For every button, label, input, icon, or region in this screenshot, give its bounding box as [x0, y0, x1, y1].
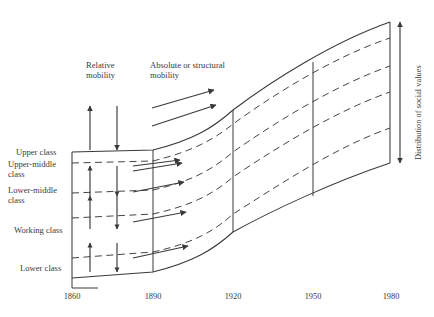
- class-label-lower-class: Lower class: [20, 264, 61, 274]
- structural-mobility-crossing-arrows: [133, 160, 188, 258]
- band-top-edge: [72, 22, 390, 152]
- crossing-arrow-2: [133, 163, 182, 171]
- year-label-1980: 1980: [371, 292, 411, 301]
- crossing-arrow-5: [133, 246, 188, 258]
- crossing-arrow-3: [133, 182, 184, 192]
- class-boundaries: [72, 38, 390, 258]
- year-label-1890: 1890: [133, 292, 173, 301]
- relative-mobility-arrows: [90, 106, 117, 150]
- absolute-mobility-arrows: [152, 90, 216, 126]
- social-mobility-figure: Relative mobility Absolute or structural…: [0, 0, 434, 317]
- class-label-upper-middle-class: Upper-middle class: [8, 160, 56, 179]
- boundary-working-class: [72, 128, 390, 258]
- band-bottom-edge: [72, 163, 390, 278]
- year-label-1920: 1920: [213, 292, 253, 301]
- axis-baseline-tick: [72, 278, 98, 288]
- class-label-upper-class: Upper class: [16, 148, 56, 158]
- absolute-mobility-arrow-1: [152, 90, 214, 108]
- relative-mobility-label: Relative mobility: [86, 61, 115, 80]
- boundary-upper-class: [72, 38, 390, 163]
- distribution-of-social-values-label: Distribution of social values: [414, 65, 423, 160]
- year-label-1950: 1950: [293, 292, 333, 301]
- year-gridlines: [153, 62, 313, 272]
- band-outline: [72, 22, 390, 278]
- crossing-arrow-4: [133, 212, 186, 222]
- absolute-mobility-arrow-2: [152, 105, 216, 126]
- boundary-lower-middle: [72, 92, 390, 218]
- class-label-working-class: Working class: [14, 226, 63, 236]
- class-label-lower-middle-class: Lower-middle class: [8, 186, 57, 205]
- crossing-arrow-1: [133, 160, 180, 166]
- absolute-mobility-label: Absolute or structural mobility: [150, 61, 225, 80]
- diagram-canvas: [0, 0, 434, 317]
- year-label-1860: 1860: [52, 292, 92, 301]
- boundary-upper-middle: [72, 66, 390, 193]
- in-band-mobility-arrows: [90, 166, 117, 272]
